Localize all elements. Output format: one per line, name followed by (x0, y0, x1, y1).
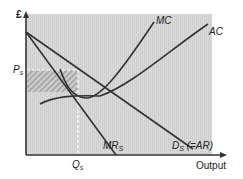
price-label: Ps (13, 65, 23, 76)
mr-label: MRS (103, 141, 123, 152)
y-axis-label: £ (16, 10, 22, 20)
mc-label: MC (156, 16, 172, 26)
ac-label: AC (209, 27, 223, 37)
x-axis-arrow-icon (220, 152, 227, 158)
quantity-label: Qs (72, 160, 83, 171)
x-axis-label: Output (196, 161, 226, 171)
economics-diagram (0, 0, 243, 179)
demand-label: DS (=AR) (172, 141, 213, 152)
